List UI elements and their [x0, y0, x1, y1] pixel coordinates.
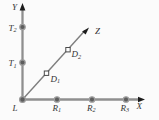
point-t2-marker [20, 24, 25, 29]
point-t2-label: T2 [9, 23, 17, 34]
x-axis-label: X [136, 101, 143, 111]
point-t1-label: T1 [9, 58, 17, 69]
z-axis-line [23, 31, 86, 100]
z-axis-label: Z [95, 26, 101, 36]
point-t1-marker [20, 60, 25, 65]
y-axis-arrowhead-icon [20, 3, 26, 11]
y-axis-label: Y [12, 2, 18, 12]
point-r3-marker [123, 97, 128, 102]
point-r2-label-sub: 2 [93, 106, 96, 113]
point-d2-marker [66, 48, 70, 52]
point-t2-label-sub: 2 [14, 26, 17, 33]
figure: Y X Z L T2 T1 D2 D1 R1 R2 R3 [0, 0, 159, 120]
axes-diagram: Y X Z L T2 T1 D2 D1 R1 R2 R3 [0, 0, 159, 120]
origin-l-label-base: L [12, 103, 18, 113]
point-r2-marker [89, 97, 94, 102]
point-d1-label: D1 [50, 74, 61, 85]
point-r1-marker [54, 97, 59, 102]
point-d2-label: D2 [71, 49, 82, 60]
origin-l-label: L [12, 103, 18, 113]
point-r3-label-sub: 3 [125, 106, 129, 113]
point-t1-label-sub: 1 [14, 62, 17, 69]
point-r1-label: R1 [52, 103, 62, 114]
point-d1-label-sub: 1 [57, 77, 60, 84]
point-d1-marker [44, 71, 48, 75]
point-r1-label-sub: 1 [58, 106, 61, 113]
point-d2-label-sub: 2 [78, 53, 81, 60]
point-r3-label: R3 [120, 103, 130, 114]
origin-l-marker [20, 97, 26, 103]
point-r2-label: R2 [86, 103, 96, 114]
